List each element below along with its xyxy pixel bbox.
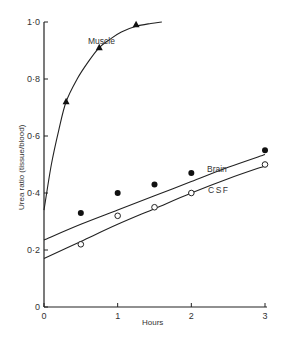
urea-ratio-chart: 00·20·40·60·81·00123 Muscle Brain CSF Ho… bbox=[0, 0, 283, 342]
x-tick-label: 3 bbox=[262, 311, 267, 321]
curve-brain bbox=[44, 155, 265, 241]
series-label-csf: CSF bbox=[208, 185, 230, 195]
x-tick-label: 2 bbox=[189, 311, 194, 321]
y-axis-title: Urea ratio (tissue/blood) bbox=[17, 124, 26, 210]
series-label-brain: Brain bbox=[207, 164, 227, 174]
curve-muscle bbox=[44, 22, 162, 210]
y-tick-label: 0·2 bbox=[27, 245, 40, 255]
data-point-csf bbox=[115, 213, 121, 219]
x-axis-title: Hours bbox=[142, 318, 163, 327]
data-point-brain bbox=[262, 147, 268, 153]
axis-ticks: 00·20·40·60·81·00123 bbox=[27, 17, 268, 321]
data-point-brain bbox=[152, 181, 158, 187]
y-tick-label: 0 bbox=[35, 302, 40, 312]
y-tick-label: 1·0 bbox=[27, 17, 40, 27]
data-point-brain bbox=[188, 170, 194, 176]
data-point-csf bbox=[262, 162, 268, 168]
y-tick-label: 0·6 bbox=[27, 131, 40, 141]
series-curves bbox=[44, 22, 265, 259]
data-point-muscle bbox=[63, 98, 70, 105]
data-point-muscle bbox=[133, 21, 140, 28]
axes bbox=[44, 22, 267, 307]
x-tick-label: 1 bbox=[115, 311, 120, 321]
data-point-csf bbox=[189, 190, 195, 196]
series-label-muscle: Muscle bbox=[88, 36, 115, 46]
x-tick-label: 0 bbox=[41, 311, 46, 321]
data-point-brain bbox=[115, 190, 121, 196]
curve-csf bbox=[44, 166, 265, 259]
y-tick-label: 0·4 bbox=[27, 188, 40, 198]
data-point-csf bbox=[152, 204, 158, 210]
data-point-csf bbox=[78, 242, 84, 248]
data-point-brain bbox=[78, 210, 84, 216]
y-tick-label: 0·8 bbox=[27, 74, 40, 84]
